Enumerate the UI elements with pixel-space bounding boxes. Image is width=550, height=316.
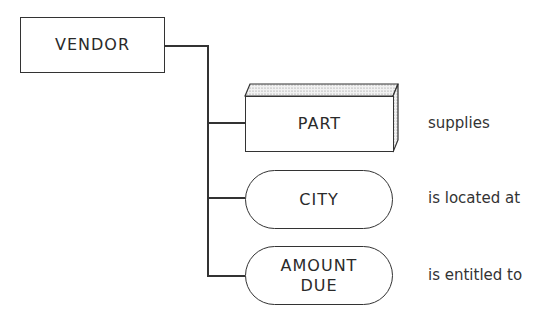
relationship-is-entitled-to: is entitled to: [428, 266, 522, 284]
city-label: CITY: [299, 190, 338, 210]
relationship-supplies: supplies: [428, 114, 490, 132]
vendor-entity-box: VENDOR: [20, 17, 165, 73]
part-label: PART: [298, 114, 341, 134]
amount-due-label-line-1: AMOUNT: [281, 256, 358, 276]
city-attribute-pill: CITY: [245, 170, 393, 229]
part-top-face: [245, 84, 398, 96]
amount-due-label: AMOUNT DUE: [281, 256, 358, 296]
amount-due-label-line-2: DUE: [281, 276, 358, 296]
vendor-label: VENDOR: [55, 35, 130, 55]
amount-due-attribute-pill: AMOUNT DUE: [245, 246, 393, 305]
relationship-is-located-at: is located at: [428, 189, 520, 207]
part-entity-box: PART: [245, 96, 394, 152]
